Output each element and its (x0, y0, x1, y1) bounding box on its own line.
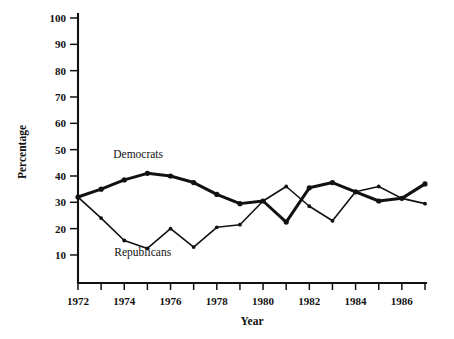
y-tick-label: 60 (55, 117, 67, 129)
x-tick-label: 1972 (67, 295, 90, 307)
data-point (307, 185, 312, 190)
series-annotation-label: Republicans (114, 246, 171, 259)
data-point (99, 187, 104, 192)
x-tick-label: 1980 (252, 295, 275, 307)
data-point (168, 173, 173, 178)
data-point (331, 219, 335, 223)
data-point (238, 223, 242, 227)
x-tick-label: 1976 (160, 295, 183, 307)
y-tick-label: 80 (55, 65, 67, 77)
line-chart: 102030405060708090100 197219741976197819… (0, 0, 454, 339)
y-tick-label: 40 (55, 170, 67, 182)
data-point (376, 198, 381, 203)
data-point (423, 202, 427, 206)
series-annotation-label: Democrats (113, 148, 163, 160)
x-axis-title: Year (241, 315, 264, 327)
data-point (237, 201, 242, 206)
data-point (260, 198, 265, 203)
y-tick-label: 90 (55, 38, 67, 50)
data-point (191, 180, 196, 185)
data-point (99, 216, 103, 220)
chart-canvas: 102030405060708090100 197219741976197819… (0, 0, 454, 339)
data-point (284, 185, 288, 189)
data-point (145, 171, 150, 176)
data-point (169, 227, 173, 231)
y-axis-title: Percentage (16, 125, 29, 179)
data-point (284, 219, 289, 224)
y-tick-label: 30 (55, 196, 67, 208)
data-point (307, 204, 311, 208)
y-tick-label: 70 (55, 91, 67, 103)
x-tick-label: 1986 (391, 295, 414, 307)
data-point (399, 196, 404, 201)
y-tick-label: 50 (55, 144, 67, 156)
data-point (75, 194, 80, 199)
data-point (122, 177, 127, 182)
data-point (214, 192, 219, 197)
data-point (422, 181, 427, 186)
x-tick-label: 1982 (298, 295, 321, 307)
x-tick-label: 1974 (113, 295, 136, 307)
data-point (215, 225, 219, 229)
data-point (377, 185, 381, 189)
data-point (122, 239, 126, 243)
y-tick-label: 10 (55, 249, 67, 261)
x-tick-label: 1978 (206, 295, 229, 307)
x-tick-label: 1984 (345, 295, 368, 307)
data-point (353, 189, 358, 194)
y-tick-label: 20 (55, 223, 67, 235)
chart-background (0, 0, 454, 339)
data-point (330, 180, 335, 185)
y-tick-label: 100 (50, 12, 67, 24)
data-point (192, 245, 196, 249)
